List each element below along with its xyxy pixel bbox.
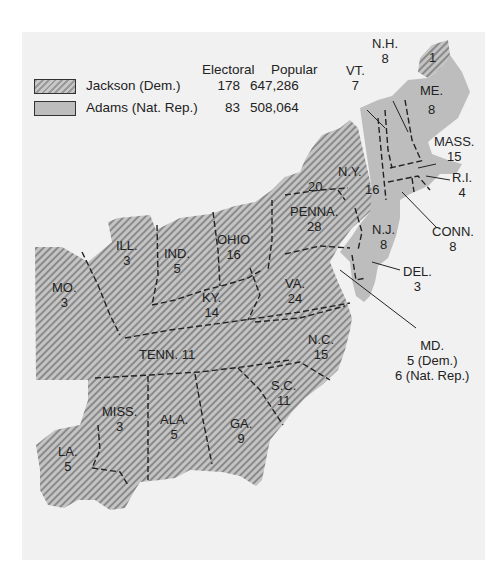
label-ind: IND.5 bbox=[164, 246, 190, 276]
label-ohio: OHIO16 bbox=[217, 232, 250, 262]
label-del: DEL.3 bbox=[403, 264, 432, 294]
popular-votes: 647,286 bbox=[250, 78, 299, 93]
hatch-swatch-icon bbox=[34, 79, 76, 94]
label-penna: PENNA.28 bbox=[290, 204, 338, 234]
electoral-votes: 83 bbox=[212, 100, 240, 115]
popular-votes: 508,064 bbox=[250, 100, 299, 115]
label-conn: CONN.8 bbox=[432, 224, 474, 254]
label-mo: MO.3 bbox=[52, 280, 77, 310]
candidate-name: Jackson (Dem.) bbox=[86, 78, 181, 93]
label-tenn: TENN. 11 bbox=[139, 347, 195, 362]
label-ill: ILL.3 bbox=[116, 238, 138, 268]
label-ky: KY.14 bbox=[202, 290, 221, 320]
label-va: VA.24 bbox=[285, 276, 305, 306]
label-miss: MISS.3 bbox=[102, 404, 137, 434]
label-la: LA.5 bbox=[58, 444, 78, 474]
label-ga: GA.9 bbox=[230, 416, 252, 446]
header-popular: Popular bbox=[271, 62, 318, 77]
label-mass: MASS.15 bbox=[434, 134, 474, 164]
header-electoral: Electoral bbox=[202, 62, 255, 77]
label-ny: N.Y.20 bbox=[308, 164, 362, 194]
label-ny-adams: 16 bbox=[365, 182, 379, 197]
label-me: ME.8 bbox=[420, 83, 443, 117]
solid-swatch-icon bbox=[34, 101, 76, 116]
label-nj: N.J.8 bbox=[372, 222, 395, 252]
label-nc: N.C.15 bbox=[308, 332, 334, 362]
label-me-district: 1 bbox=[429, 50, 436, 65]
candidate-name: Adams (Nat. Rep.) bbox=[86, 100, 198, 115]
label-sc: S.C.11 bbox=[271, 378, 296, 408]
label-vt: VT.7 bbox=[346, 63, 365, 93]
label-ala: ALA.5 bbox=[160, 412, 188, 442]
electoral-votes: 178 bbox=[212, 78, 240, 93]
label-md: MD.5 (Dem.)6 (Nat. Rep.) bbox=[395, 338, 469, 383]
label-nh: N.H.8 bbox=[372, 36, 398, 66]
label-ri: R.I.4 bbox=[452, 170, 472, 200]
